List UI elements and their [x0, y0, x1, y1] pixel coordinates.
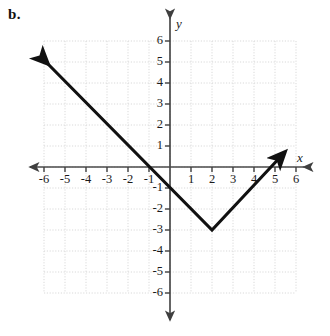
- x-tick-label: 4: [244, 172, 264, 187]
- x-tick-label: -6: [34, 172, 54, 187]
- x-tick-label: 3: [223, 172, 243, 187]
- x-axis-label: x: [297, 150, 303, 166]
- x-tick-label: 1: [181, 172, 201, 187]
- y-tick-label: 3: [141, 96, 163, 111]
- x-tick-label: -4: [76, 172, 96, 187]
- x-tick-label: -3: [97, 172, 117, 187]
- y-tick-label: 2: [141, 117, 163, 132]
- curve-graph: [48, 64, 285, 230]
- x-tick-label: -2: [118, 172, 138, 187]
- y-tick-label: -4: [141, 243, 163, 258]
- y-tick-label: 6: [141, 33, 163, 48]
- y-tick-label: -5: [141, 264, 163, 279]
- y-tick-label: -6: [141, 285, 163, 300]
- y-axis-label: y: [176, 16, 182, 32]
- y-tick-label: 1: [141, 138, 163, 153]
- x-tick-label: 5: [265, 172, 285, 187]
- x-tick-label: 6: [286, 172, 306, 187]
- figure-container: b.: [0, 0, 330, 336]
- x-tick-label: 2: [202, 172, 222, 187]
- y-tick-label: -3: [141, 222, 163, 237]
- y-tick-label: 4: [141, 75, 163, 90]
- y-tick-label: -1: [141, 180, 163, 195]
- axis-lines: [30, 18, 304, 320]
- coordinate-plane: [0, 0, 330, 336]
- x-tick-label: -5: [55, 172, 75, 187]
- y-tick-label: 5: [141, 54, 163, 69]
- y-tick-label: -2: [141, 201, 163, 216]
